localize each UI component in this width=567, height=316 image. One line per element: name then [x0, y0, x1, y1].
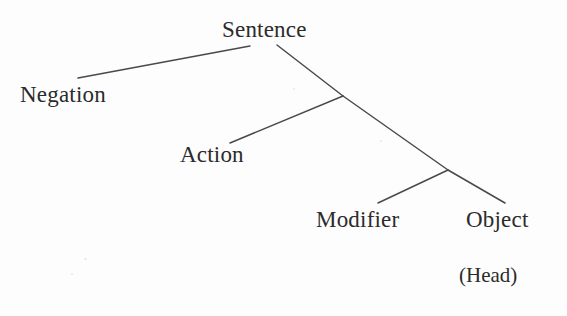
- node-modifier: Modifier: [316, 208, 399, 231]
- edge-junction2-object: [448, 170, 505, 203]
- parse-tree-diagram: Sentence Negation Action Modifier Object…: [0, 0, 567, 316]
- node-negation: Negation: [20, 83, 106, 106]
- node-action: Action: [180, 143, 244, 166]
- annotation-head: (Head): [459, 265, 517, 286]
- node-sentence: Sentence: [222, 18, 307, 41]
- edge-junction1-junction2: [343, 96, 448, 170]
- edge-sentence-junction1: [277, 45, 343, 96]
- node-object: Object: [466, 208, 529, 231]
- edge-junction1-action: [230, 96, 343, 143]
- edge-sentence-negation: [78, 46, 250, 78]
- edge-junction2-modifier: [378, 170, 448, 203]
